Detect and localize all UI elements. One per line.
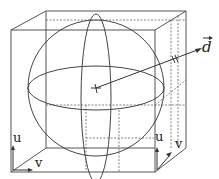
direction-vector-line — [96, 49, 200, 88]
side-u-label: u — [155, 129, 163, 144]
connect-top-left — [11, 11, 46, 30]
front-u-arrowhead — [11, 145, 15, 150]
front-u-label: u — [13, 130, 21, 145]
direction-vector-label: d — [202, 38, 212, 56]
side-diag-dash — [155, 80, 186, 105]
side-v-arrowhead — [166, 152, 172, 157]
sphere-cube-diagram: d u v u v — [0, 0, 219, 179]
connect-top-right — [155, 11, 186, 30]
side-u-arrowhead — [155, 147, 159, 152]
direction-arrowhead — [195, 48, 202, 53]
meridian-ellipse — [81, 14, 111, 179]
front-v-arrowhead — [28, 168, 33, 172]
connect-bottom-right — [155, 148, 186, 172]
side-v-label: v — [174, 136, 183, 151]
front-v-label: v — [34, 155, 43, 170]
